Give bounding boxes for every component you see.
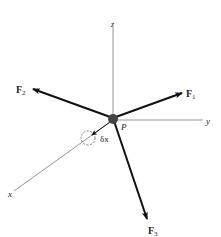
force-f3-label: F3 [148,225,158,237]
force-f3-arrow [113,118,147,219]
diagram-canvas: z y x δx F1 F2 F3 P [0,0,221,237]
point-label: P [120,122,127,132]
force-f1-arrow [113,93,182,118]
displacement-label: δx [100,134,109,144]
force-f2-label: F2 [16,84,26,97]
x-axis-label: x [7,189,12,199]
y-axis-label: y [205,116,210,126]
force-f1-label: F1 [186,88,196,101]
particle [108,114,118,124]
force-f2-arrow [33,89,113,118]
z-axis-label: z [110,20,115,29]
